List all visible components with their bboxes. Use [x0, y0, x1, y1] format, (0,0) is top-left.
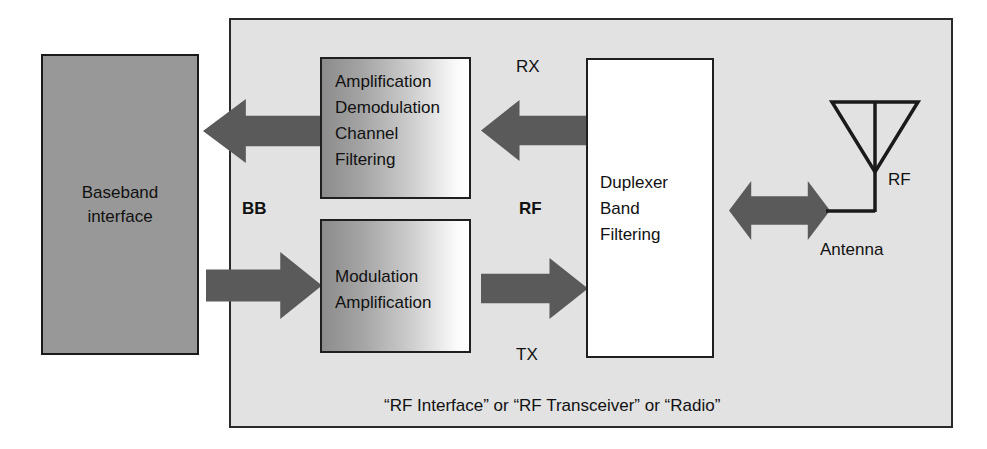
rx-label: RX: [516, 57, 540, 77]
receive-chain-line-4: Filtering: [335, 147, 440, 173]
baseband-label-line2: interface: [82, 205, 159, 229]
receive-chain-line-1: Amplification: [335, 69, 440, 95]
receive-chain-line-2: Demodulation: [335, 95, 440, 121]
duplexer-line-2: Band: [600, 196, 668, 222]
duplexer-block: Duplexer Band Filtering: [586, 58, 714, 358]
receive-chain-label: Amplification Demodulation Channel Filte…: [335, 69, 440, 173]
transmit-chain-block: Modulation Amplification: [320, 219, 471, 353]
baseband-label: Baseband interface: [82, 181, 159, 229]
tx-label: TX: [516, 345, 538, 365]
transmit-chain-line-2: Amplification: [335, 290, 431, 316]
baseband-interface-box: Baseband interface: [41, 54, 199, 355]
transmit-chain-label: Modulation Amplification: [335, 264, 431, 316]
transmit-chain-line-1: Modulation: [335, 264, 431, 290]
antenna-icon: [820, 96, 930, 218]
duplexer-line-3: Filtering: [600, 222, 668, 248]
rf-interface-caption: “RF Interface” or “RF Transceiver” or “R…: [384, 396, 720, 416]
antenna-label: Antenna: [820, 240, 883, 260]
rf-antenna-label: RF: [888, 170, 911, 190]
rf-mid-label: RF: [519, 199, 542, 219]
duplexer-label: Duplexer Band Filtering: [600, 170, 668, 248]
bb-label: BB: [242, 199, 267, 219]
baseband-label-line1: Baseband: [82, 181, 159, 205]
diagram-canvas: Baseband interface Amplification Demodul…: [0, 0, 987, 449]
duplexer-line-1: Duplexer: [600, 170, 668, 196]
receive-chain-block: Amplification Demodulation Channel Filte…: [320, 57, 471, 199]
receive-chain-line-3: Channel: [335, 121, 440, 147]
